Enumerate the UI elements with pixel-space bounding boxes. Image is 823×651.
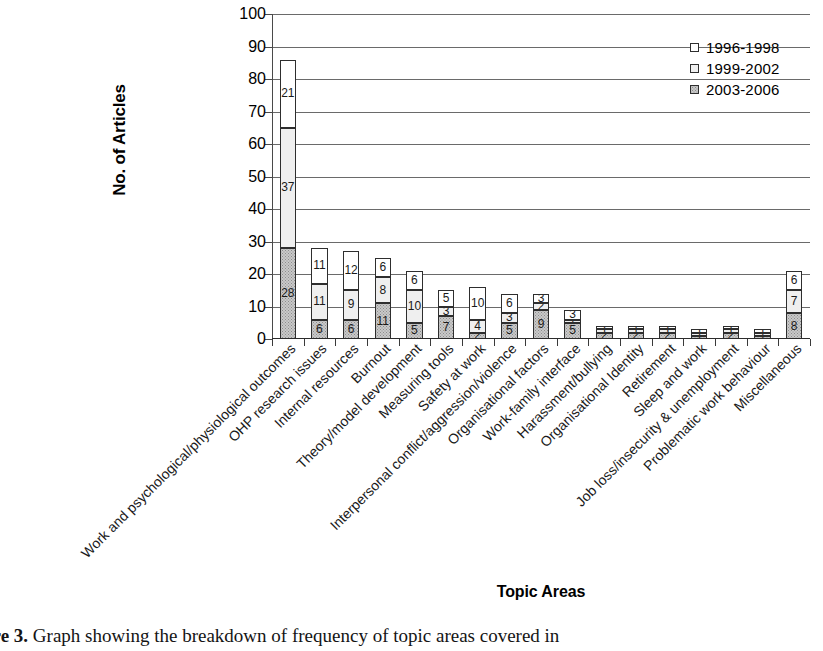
bar-stack[interactable]: 5106 <box>406 271 422 339</box>
legend-entry[interactable]: 2003-2006 <box>690 80 820 98</box>
bar-segment[interactable]: 6 <box>343 320 359 340</box>
bar-segment[interactable]: 1 <box>564 320 580 323</box>
bar-segment[interactable]: 11 <box>311 248 327 284</box>
bar-value-label: 2 <box>538 303 545 310</box>
bar-segment[interactable]: 1 <box>596 329 612 332</box>
bar-value-label: 7 <box>791 296 798 307</box>
bar-segment[interactable]: 6 <box>311 320 327 340</box>
bar-segment[interactable]: 12 <box>343 251 359 290</box>
bar-value-label: 3 <box>506 313 513 323</box>
legend-entry[interactable]: 1999-2002 <box>690 59 820 77</box>
bar-segment[interactable]: 9 <box>533 310 549 339</box>
bar-segment[interactable]: 7 <box>786 290 802 313</box>
bar-segment[interactable]: 1 <box>628 326 644 329</box>
bar-stack[interactable]: 513 <box>564 310 580 339</box>
bar-segment[interactable]: 1 <box>691 333 707 336</box>
legend-swatch-icon <box>690 43 699 52</box>
bar-segment[interactable]: 37 <box>280 128 296 248</box>
y-tick-mark <box>265 339 272 340</box>
bar-value-label: 1 <box>696 329 703 332</box>
y-tick-mark <box>265 47 272 48</box>
bar-value-label: 11 <box>313 260 325 271</box>
bar-value-label: 4 <box>474 321 481 332</box>
y-tick-label: 40 <box>222 201 266 217</box>
bar-stack[interactable]: 1186 <box>375 258 391 339</box>
bar-segment[interactable]: 21 <box>280 60 296 128</box>
y-tick-mark <box>265 112 272 113</box>
bar-value-label: 3 <box>538 294 545 304</box>
bar-segment[interactable]: 6 <box>786 271 802 291</box>
y-tick-label: 70 <box>222 104 266 120</box>
bar-segment[interactable]: 1 <box>691 329 707 332</box>
gridline <box>272 177 810 178</box>
bar-segment[interactable]: 1 <box>723 326 739 329</box>
bar-segment[interactable]: 3 <box>438 307 454 317</box>
bar-value-label: 1 <box>728 326 735 329</box>
bar-value-label: 1 <box>569 320 576 323</box>
bar-segment[interactable]: 5 <box>438 290 454 306</box>
bar-value-label: 6 <box>411 275 418 286</box>
bar-stack[interactable]: 6912 <box>343 251 359 339</box>
bar-segment[interactable]: 10 <box>469 287 485 320</box>
legend-label: 1996-1998 <box>706 40 780 55</box>
bar-stack[interactable]: 923 <box>533 294 549 340</box>
bar-stack[interactable]: 2410 <box>469 287 485 339</box>
bar-segment[interactable]: 28 <box>280 248 296 339</box>
bar-segment[interactable]: 11 <box>375 303 391 339</box>
bar-segment[interactable]: 1 <box>754 333 770 336</box>
bar-value-label: 1 <box>664 329 671 332</box>
bar-value-label: 3 <box>569 310 576 320</box>
bar-value-label: 11 <box>377 316 389 327</box>
figure-caption-number: ure 3. <box>0 625 28 646</box>
bar-segment[interactable]: 9 <box>343 290 359 319</box>
bar-segment[interactable]: 4 <box>469 320 485 333</box>
bar-stack[interactable]: 283721 <box>280 60 296 340</box>
y-tick-label: 50 <box>222 169 266 185</box>
legend-swatch-icon <box>690 85 699 94</box>
bar-segment[interactable]: 6 <box>501 294 517 314</box>
legend-entry[interactable]: 1996-1998 <box>690 38 820 56</box>
bar-stack[interactable]: 735 <box>438 290 454 339</box>
bar-segment[interactable]: 1 <box>628 329 644 332</box>
bar-value-label: 11 <box>313 296 325 307</box>
y-tick-mark <box>265 274 272 275</box>
bar-stack[interactable]: 536 <box>501 294 517 340</box>
bar-segment[interactable]: 2 <box>533 303 549 310</box>
bar-value-label: 37 <box>281 182 294 193</box>
bar-segment[interactable]: 1 <box>659 329 675 332</box>
y-tick-mark <box>265 209 272 210</box>
gridline <box>272 112 810 113</box>
bar-segment[interactable]: 1 <box>723 329 739 332</box>
bar-segment[interactable]: 3 <box>501 313 517 323</box>
bar-segment[interactable]: 8 <box>786 313 802 339</box>
legend-swatch-icon <box>690 64 699 73</box>
bar-segment[interactable]: 1 <box>596 326 612 329</box>
bar-value-label: 1 <box>664 326 671 329</box>
bar-segment[interactable]: 3 <box>533 294 549 304</box>
bar-value-label: 5 <box>411 325 418 336</box>
y-tick-mark <box>265 177 272 178</box>
gridline <box>272 144 810 145</box>
bar-value-label: 10 <box>408 301 421 312</box>
bar-segment[interactable]: 1 <box>659 326 675 329</box>
bar-value-label: 8 <box>791 321 798 332</box>
bar-value-label: 6 <box>316 324 323 335</box>
bar-stack[interactable]: 876 <box>786 271 802 339</box>
bar-value-label: 12 <box>344 265 357 276</box>
bar-value-label: 1 <box>696 333 703 336</box>
bar-segment[interactable]: 6 <box>406 271 422 291</box>
bar-segment[interactable]: 6 <box>375 258 391 278</box>
bar-segment[interactable]: 1 <box>754 329 770 332</box>
bar-segment[interactable]: 11 <box>311 284 327 320</box>
bar-segment[interactable]: 7 <box>438 316 454 339</box>
bar-value-label: 21 <box>281 88 294 99</box>
bar-value-label: 5 <box>569 325 576 336</box>
y-tick-mark <box>265 242 272 243</box>
bar-segment[interactable]: 10 <box>406 290 422 323</box>
bar-value-label: 5 <box>443 293 450 304</box>
bar-segment[interactable]: 8 <box>375 277 391 303</box>
bar-stack[interactable]: 61111 <box>311 248 327 339</box>
y-tick-label: 0 <box>222 331 266 347</box>
y-tick-label: 90 <box>222 39 266 55</box>
bar-segment[interactable]: 3 <box>564 310 580 320</box>
